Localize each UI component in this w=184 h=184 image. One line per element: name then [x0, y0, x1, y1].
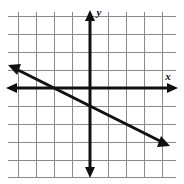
- x-axis-arrow-left-icon: [6, 83, 17, 93]
- y-axis-arrow-up-icon: [85, 10, 95, 21]
- grid-lines-horizontal: [8, 17, 176, 178]
- y-axis-arrow-down-icon: [85, 167, 95, 178]
- x-axis-arrow-right-icon: [167, 83, 178, 93]
- x-axis-label: x: [164, 70, 171, 82]
- x-axis: [6, 83, 178, 93]
- coordinate-plane-figure: y x: [0, 0, 184, 184]
- y-axis: [85, 10, 95, 178]
- y-axis-label: y: [95, 6, 102, 18]
- graph-canvas: y x: [0, 0, 184, 184]
